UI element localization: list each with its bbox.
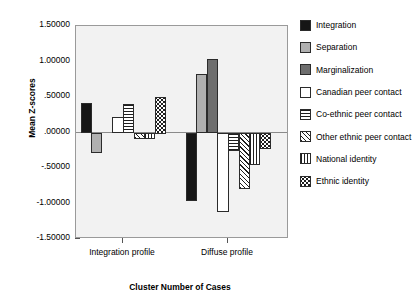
legend-item: National identity [300,148,413,170]
legend-label: Canadian peer contact [316,87,402,97]
legend-swatch-icon [300,131,311,142]
legend: IntegrationSeparationMarginalizationCana… [300,14,413,192]
y-tick-mark [75,238,80,239]
legend-swatch-icon [300,20,311,31]
bar [81,103,92,134]
x-tick-mark [227,238,228,243]
x-tick-mark [122,238,123,243]
legend-label: Marginalization [316,65,373,75]
bar [123,104,134,133]
y-tick-label: -1.50000 [14,232,70,242]
legend-item: Separation [300,36,413,58]
bar [144,133,155,140]
bar [196,74,207,134]
y-tick-label: -1.00000 [14,197,70,207]
legend-swatch-icon [300,42,311,53]
y-tick-label: .00000 [14,126,70,136]
x-category-label: Integration profile [62,247,182,258]
x-axis-title: Cluster Number of Cases [60,282,300,292]
legend-swatch-icon [300,153,311,164]
legend-label: Ethnic identity [316,176,369,186]
bar [217,133,228,212]
legend-label: Other ethnic peer contact [316,132,411,142]
legend-label: National identity [316,154,376,164]
legend-swatch-icon [300,87,311,98]
bar [239,133,250,189]
legend-label: Separation [316,42,357,52]
y-tick-label: -.50000 [14,161,70,171]
bar [155,97,166,134]
legend-swatch-icon [300,176,311,187]
bar [249,133,260,166]
legend-label: Co-ethnic peer contact [316,109,402,119]
legend-item: Co-ethnic peer contact [300,103,413,125]
y-tick-label: 1.00000 [14,55,70,65]
plot-area [75,25,288,238]
y-tick-label: .50000 [14,90,70,100]
bar [134,133,145,140]
y-tick-label: 1.50000 [14,19,70,29]
legend-item: Other ethnic peer contact [300,125,413,147]
legend-item: Integration [300,14,413,36]
x-category-label: Diffuse profile [167,247,287,258]
bar-chart: Mean Z-scores 1.500001.00000.50000.00000… [0,0,415,302]
legend-item: Marginalization [300,59,413,81]
bar [91,133,102,154]
bar [112,117,123,134]
legend-swatch-icon [300,64,311,75]
bar [186,133,197,201]
bar [260,133,271,150]
legend-item: Ethnic identity [300,170,413,192]
bar [228,133,239,152]
legend-item: Canadian peer contact [300,81,413,103]
bar [207,59,218,133]
legend-swatch-icon [300,109,311,120]
legend-label: Integration [316,20,356,30]
